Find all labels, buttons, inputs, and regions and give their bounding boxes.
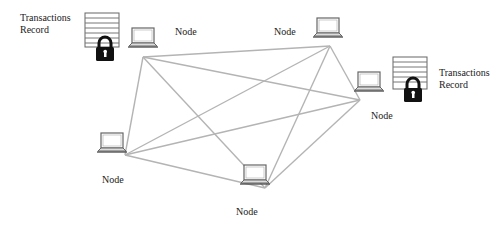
edge-n2-n4 (125, 46, 330, 155)
edge-n2-n5 (265, 46, 330, 188)
record-label-line2: Record (439, 79, 504, 91)
record-label-line1: Transactions (20, 12, 100, 24)
laptop-icon (354, 72, 384, 91)
node-label-n2: Node (274, 26, 296, 38)
node-label-n5: Node (236, 206, 258, 218)
record-label-right: Transactions Record (439, 67, 504, 91)
edge-n2-n3 (330, 46, 360, 100)
edge-n3-n5 (265, 100, 360, 188)
edge-n3-n4 (125, 100, 360, 155)
record-label-line2: Record (20, 24, 100, 36)
edge-n1-n2 (143, 46, 330, 57)
laptop-icon (97, 133, 127, 152)
edge-n1-n4 (125, 57, 143, 155)
laptop-icon (313, 18, 343, 37)
node-label-n1: Node (175, 26, 197, 38)
laptop-icon (128, 28, 158, 47)
record-label-left: Transactions Record (20, 12, 100, 36)
laptop-icon (240, 165, 270, 184)
edge-n1-n3 (143, 57, 360, 100)
transactions-record-right (393, 57, 427, 102)
node-label-n4: Node (102, 174, 124, 186)
record-label-line1: Transactions (439, 67, 504, 79)
network-edges (125, 46, 360, 188)
node-label-n3: Node (371, 110, 393, 122)
document-stack-icon (393, 57, 427, 89)
